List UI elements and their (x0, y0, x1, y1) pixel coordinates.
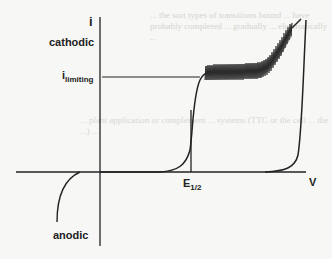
voltammogram-figure: ... the sort types of transitions bound … (0, 0, 332, 259)
anodic-label: anodic (53, 229, 88, 241)
wave-rise (100, 72, 210, 172)
e-half-label: E1/2 (183, 177, 201, 192)
cathodic-label: cathodic (49, 36, 94, 48)
anodic-curve (57, 172, 80, 222)
wave-upper-tail (292, 19, 301, 28)
i-limiting-subscript: limiting (65, 75, 93, 84)
i-limiting-label: ilimiting (62, 69, 94, 84)
x-axis-label: V (309, 176, 316, 188)
plateau-band-fill (205, 24, 292, 80)
y-axis-label: i (89, 14, 93, 29)
e-half-subscript: 1/2 (190, 183, 201, 192)
